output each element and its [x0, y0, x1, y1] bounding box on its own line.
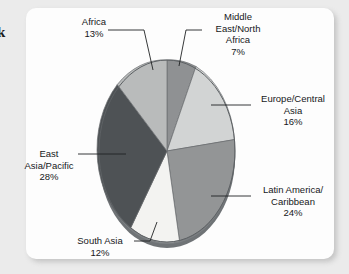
label-europe-central-asia: Europe/Central Asia 16%: [252, 93, 334, 128]
pie-chart-svg: [26, 8, 334, 259]
pie-chart: Africa 13% Middle East/North Africa 7% E…: [26, 8, 334, 259]
label-south-asia: South Asia 12%: [66, 235, 134, 258]
pie-slices: [97, 60, 235, 242]
margin-cropped-glyph: k: [0, 24, 4, 41]
label-africa: Africa 13%: [64, 16, 124, 39]
label-latin-america-caribbean: Latin America/ Caribbean 24%: [252, 184, 334, 219]
label-east-asia-pacific: East Asia/Pacific 28%: [20, 148, 78, 183]
leader-line-middle-east: [179, 30, 202, 66]
label-middle-east-north-africa: Middle East/North Africa 7%: [202, 11, 274, 57]
screenshot-root: k: [0, 0, 349, 274]
chart-panel: Africa 13% Middle East/North Africa 7% E…: [26, 8, 334, 259]
